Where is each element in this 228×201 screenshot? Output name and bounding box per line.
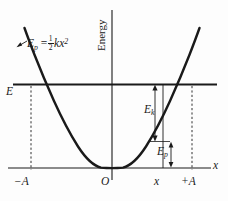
x-tick-label-displacement: x [154,176,159,188]
formula-lhs-symbol: E [27,37,34,49]
y-axis-title: Energy [96,19,107,51]
x-tick-label-plus-amplitude: +A [181,176,196,188]
formula-lhs-subscript: p [34,43,38,52]
total-energy-label: E [6,86,13,98]
x-axis-title: x [213,160,218,172]
formula-equals-sign: = [41,37,48,49]
kinetic-energy-symbol: E [144,103,151,115]
potential-energy-arrowhead-down [169,162,174,168]
x-tick-label-minus-amplitude: −A [14,176,29,188]
potential-energy-subscript: p [164,150,168,159]
kinetic-energy-label: Ek [144,104,155,117]
formula-fraction-denominator: 2 [48,44,54,52]
figure-canvas [0,0,228,201]
kinetic-energy-arrowhead-down [152,136,157,142]
potential-energy-formula-label: Ep =12kx2 [27,35,68,51]
formula-one-half-fraction: 12 [48,35,54,51]
formula-exponent: 2 [64,37,68,46]
potential-energy-label: Ep [157,146,168,159]
formula-leader-arrowhead [17,42,23,47]
kinetic-energy-subscript: k [151,108,154,117]
potential-energy-arrowhead-up [169,142,174,148]
potential-energy-symbol: E [157,145,164,157]
x-tick-label-origin: O [101,176,109,188]
kinetic-energy-arrowhead-up [152,85,157,91]
energy-vs-displacement-figure: Energy Ep =12kx2 E Ek Ep −A O x +A x [0,0,228,201]
